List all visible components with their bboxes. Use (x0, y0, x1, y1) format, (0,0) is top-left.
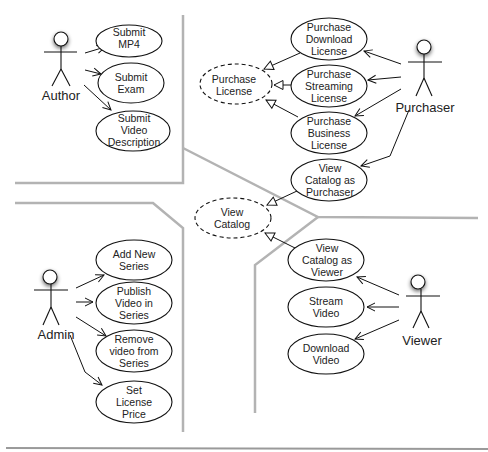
svg-text:Video: Video (313, 354, 340, 366)
svg-text:Catalog: Catalog (214, 218, 250, 230)
gen-download-to-purchase-license (264, 53, 300, 69)
use-case-remove-video-from-series[interactable]: Remove video from Series (96, 330, 172, 372)
actor-author[interactable]: Author (42, 32, 81, 103)
stick-figure-icon (406, 275, 440, 328)
svg-text:Series: Series (119, 357, 149, 369)
use-case-publish-video-in-series[interactable]: Publish Video in Series (96, 282, 172, 324)
assoc-viewer-download-video (355, 320, 399, 339)
svg-text:MP4: MP4 (118, 38, 140, 50)
use-case-purchase-license[interactable]: Purchase License (200, 64, 272, 104)
svg-text:License: License (311, 92, 347, 104)
assoc-admin-add-new-series (76, 275, 104, 288)
use-case-purchase-download-license[interactable]: Purchase Download License (291, 18, 367, 60)
actor-purchaser[interactable]: Purchaser (395, 40, 455, 115)
svg-text:View: View (316, 242, 339, 254)
use-case-purchase-business-license[interactable]: Purchase Business License (291, 112, 367, 154)
actor-label: Purchaser (395, 100, 455, 115)
svg-text:Download: Download (306, 33, 353, 45)
use-case-purchase-streaming-license[interactable]: Purchase Streaming License (291, 65, 367, 107)
svg-text:Catalog as: Catalog as (305, 174, 355, 186)
svg-text:Add New: Add New (113, 248, 156, 260)
use-case-stream-video[interactable]: Stream Video (288, 287, 364, 327)
use-case-view-catalog[interactable]: View Catalog (195, 198, 271, 238)
svg-text:Business: Business (308, 127, 351, 139)
svg-text:Download: Download (303, 342, 350, 354)
use-case-download-video[interactable]: Download Video (288, 334, 364, 374)
assoc-purchaser-view-catalog-purchaser (361, 110, 409, 166)
svg-text:Purchase: Purchase (307, 115, 352, 127)
assoc-viewer-view-catalog-viewer (357, 277, 399, 295)
assoc-admin-set-license-price (70, 335, 102, 385)
use-case-submit-video-description[interactable]: Submit Video Description (96, 111, 170, 151)
svg-text:Series: Series (119, 260, 149, 272)
actor-label: Viewer (402, 333, 442, 348)
svg-text:Description: Description (108, 136, 161, 148)
svg-text:Set: Set (126, 384, 142, 396)
use-case-submit-mp4[interactable]: Submit MP4 (96, 25, 162, 57)
svg-text:Video: Video (121, 124, 148, 136)
svg-text:video from: video from (109, 345, 158, 357)
svg-text:Video in: Video in (115, 297, 153, 309)
svg-text:Stream: Stream (309, 295, 343, 307)
assoc-admin-remove-video (76, 317, 106, 336)
use-case-add-new-series[interactable]: Add New Series (96, 240, 172, 280)
svg-text:Video: Video (313, 307, 340, 319)
assoc-author-submit-exam (85, 70, 101, 74)
actor-admin[interactable]: Admin (34, 270, 74, 342)
svg-text:Purchase: Purchase (307, 21, 352, 33)
svg-text:Price: Price (122, 408, 146, 420)
stick-figure-icon (44, 32, 77, 86)
svg-text:Purchase: Purchase (307, 68, 352, 80)
svg-text:Streaming: Streaming (305, 80, 353, 92)
svg-text:Catalog as: Catalog as (302, 254, 352, 266)
svg-text:Exam: Exam (118, 83, 145, 95)
assoc-purchaser-download-license (364, 51, 401, 64)
stick-figure-icon (34, 270, 68, 325)
svg-text:Viewer: Viewer (311, 266, 343, 278)
svg-text:License: License (116, 396, 152, 408)
svg-text:Remove: Remove (114, 333, 153, 345)
svg-text:Submit: Submit (118, 112, 151, 124)
svg-text:Submit: Submit (113, 26, 146, 38)
bottom-rule (6, 448, 488, 449)
stick-figure-icon (408, 40, 442, 96)
use-case-view-catalog-as-purchaser[interactable]: View Catalog as Purchaser (291, 159, 367, 201)
svg-text:Submit: Submit (115, 71, 148, 83)
svg-text:Purchaser: Purchaser (306, 186, 354, 198)
svg-text:License: License (311, 45, 347, 57)
actor-label: Admin (38, 327, 75, 342)
svg-text:Purchase: Purchase (212, 73, 257, 85)
use-case-view-catalog-as-viewer[interactable]: View Catalog as Viewer (288, 239, 364, 281)
assoc-purchaser-streaming-license (368, 77, 401, 80)
svg-text:Series: Series (119, 309, 149, 321)
use-case-submit-exam[interactable]: Submit Exam (98, 63, 164, 103)
use-case-diagram: Author Purchaser Admin Viewer (0, 0, 488, 452)
svg-text:View: View (221, 206, 244, 218)
svg-text:Publish: Publish (117, 285, 152, 297)
svg-text:View: View (319, 162, 342, 174)
actor-label: Author (42, 88, 81, 103)
svg-text:License: License (216, 85, 252, 97)
svg-text:License: License (311, 139, 347, 151)
use-case-set-license-price[interactable]: Set License Price (96, 381, 172, 423)
actor-viewer[interactable]: Viewer (402, 275, 442, 348)
gen-business-to-purchase-license (266, 100, 298, 117)
